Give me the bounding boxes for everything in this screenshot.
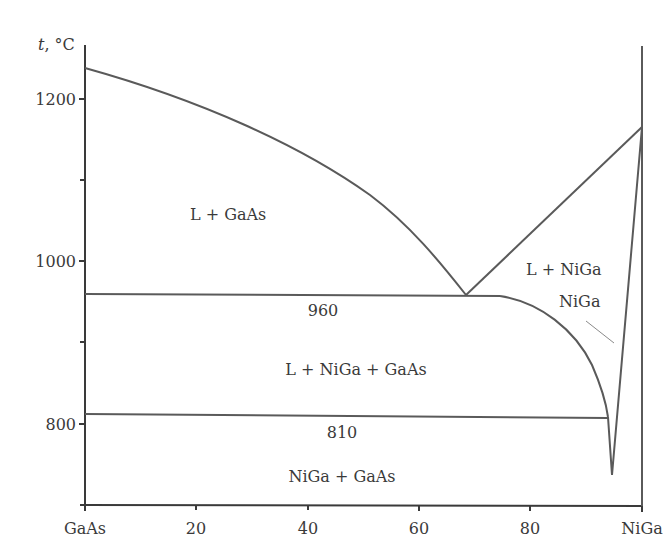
y-axis-title: t, °C bbox=[38, 35, 75, 54]
isotherm-810-label: 810 bbox=[327, 423, 358, 442]
x-tick-40: 40 bbox=[298, 519, 318, 538]
niga-solvus-curve bbox=[500, 296, 608, 417]
region-niga-gaas: NiGa + GaAs bbox=[288, 467, 395, 486]
liquidus-gaas-curve bbox=[85, 68, 466, 295]
x-axis bbox=[80, 505, 643, 506]
region-l-niga-gaas: L + NiGa + GaAs bbox=[285, 360, 426, 379]
x-tick-gaas: GaAs bbox=[64, 519, 106, 538]
x-tick-80: 80 bbox=[520, 519, 540, 538]
region-l-gaas: L + GaAs bbox=[190, 205, 266, 224]
y-tick-800: 800 bbox=[45, 415, 76, 434]
y-tick-1200: 1200 bbox=[35, 90, 76, 109]
region-l-niga: L + NiGa bbox=[526, 260, 602, 279]
region-niga: NiGa bbox=[559, 292, 601, 311]
x-tick-niga: NiGa bbox=[621, 519, 663, 538]
phase-diagram-chart: t, °C 1200 1000 800 GaAs 20 40 60 80 NiG… bbox=[0, 0, 672, 560]
x-tick-20: 20 bbox=[186, 519, 206, 538]
niga-homogeneity-left bbox=[608, 127, 642, 475]
y-tick-1000: 1000 bbox=[35, 252, 76, 271]
x-tick-60: 60 bbox=[409, 519, 429, 538]
isotherm-810 bbox=[85, 414, 608, 418]
isotherm-960 bbox=[85, 294, 500, 296]
niga-leader-line bbox=[586, 321, 614, 343]
isotherm-960-label: 960 bbox=[308, 301, 339, 320]
